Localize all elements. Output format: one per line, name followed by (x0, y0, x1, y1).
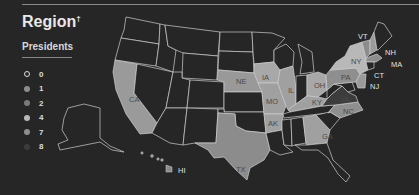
label-tx: TX (236, 165, 246, 174)
label-ky: KY (312, 98, 322, 107)
label-ne: NE (236, 77, 246, 86)
state-ks[interactable] (224, 92, 264, 112)
label-va: VA (340, 95, 349, 104)
label-ak: AK (268, 119, 278, 128)
label-ct: CT (374, 71, 384, 80)
state-hi[interactable] (141, 152, 172, 172)
label-mo: MO (266, 97, 278, 106)
state-mi[interactable] (298, 44, 314, 74)
label-ga: GA (322, 132, 333, 141)
state-nd[interactable] (219, 32, 253, 52)
state-wy[interactable] (182, 53, 218, 80)
label-vt: VT (358, 32, 368, 41)
label-nc: NC (343, 107, 354, 116)
label-nh: NH (385, 48, 396, 57)
label-ia: IA (262, 73, 269, 82)
state-ms[interactable] (282, 119, 292, 146)
state-nm[interactable] (183, 108, 218, 145)
state-me[interactable] (374, 22, 392, 50)
label-ca: CA (129, 95, 139, 104)
label-ny: NY (351, 57, 361, 66)
label-ma: MA (391, 60, 402, 69)
state-wi[interactable] (274, 44, 294, 70)
label-oh: OH (314, 81, 325, 90)
label-hi: HI (178, 166, 186, 175)
state-alaska[interactable] (58, 104, 124, 152)
state-co[interactable] (187, 80, 224, 108)
label-nj: NJ (370, 82, 379, 91)
state-fl[interactable] (295, 143, 350, 182)
state-sd[interactable] (218, 51, 254, 73)
label-il: IL (288, 86, 294, 95)
label-pa: PA (341, 73, 350, 82)
us-map: CA TX NE IA MO IL AK OH KY PA NY VA NC G… (0, 0, 419, 195)
